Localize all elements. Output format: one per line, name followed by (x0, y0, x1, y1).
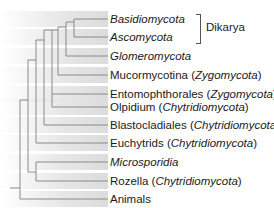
taxon-glomeromycota: Glomeromycota (110, 49, 191, 63)
taxon-basidiomycota: Basidiomycota (110, 12, 185, 26)
taxon-euchytrids: Euchytrids (Chytridiomycota) (110, 136, 257, 150)
taxon-microsporidia: Microsporidia (110, 155, 178, 169)
taxon-ascomycota: Ascomycota (110, 30, 173, 44)
taxon-entomophthorales: Entomophthorales (Zygomycota) (110, 87, 274, 101)
taxon-rozella: Rozella (Chytridiomycota) (110, 174, 242, 188)
taxon-mucormycotina: Mucormycotina (Zygomycota) (110, 68, 261, 82)
taxon-animals: Animals (110, 192, 151, 206)
dikarya-bracket (196, 14, 201, 44)
taxon-blastocladiales: Blastocladiales (Chytridiomycota) (110, 118, 274, 132)
dikarya-label: Dikarya (206, 21, 245, 33)
taxon-olpidium: Olpidium (Chytridiomycota) (110, 100, 249, 114)
